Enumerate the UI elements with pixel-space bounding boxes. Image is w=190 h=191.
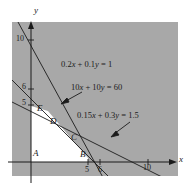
vertex-label-d: D bbox=[50, 117, 57, 126]
x-tick-label-10: 10 bbox=[143, 164, 151, 172]
eq1-pre: 0.2 bbox=[61, 59, 72, 69]
eq3-pre: 0.15 bbox=[77, 110, 92, 120]
y-tick-label-6: 6 bbox=[22, 83, 26, 91]
y-tick-label-5: 5 bbox=[22, 99, 26, 107]
vertex-label-b: B bbox=[80, 150, 86, 159]
vertex-label-c: C bbox=[71, 133, 77, 142]
eq1-post: = 1 bbox=[99, 59, 112, 69]
equation-label-02x-01y: 0.2x + 0.1y = 1 bbox=[61, 60, 112, 69]
equation-label-015x-03y: 0.15x + 0.3y = 1.5 bbox=[77, 111, 139, 120]
feasible-region-figure: y x 10 6 5 5 6 10 A B C D E 0.2x + 0.1y … bbox=[0, 0, 190, 191]
x-tick-label-5: 5 bbox=[85, 166, 89, 174]
eq3-post: = 1.5 bbox=[119, 110, 139, 120]
x-tick-label-6: 6 bbox=[98, 166, 102, 174]
vertex-label-a: A bbox=[33, 149, 39, 158]
figure-canvas bbox=[0, 0, 190, 191]
eq2-pre: 10 bbox=[71, 82, 80, 92]
eq2-post: = 60 bbox=[105, 82, 123, 92]
y-tick-label-10: 10 bbox=[16, 35, 24, 43]
y-axis-label: y bbox=[34, 6, 38, 15]
vertex-label-e: E bbox=[37, 104, 43, 113]
eq1-mid: + 0.1 bbox=[75, 59, 95, 69]
equation-label-10x-10y: 10x + 10y = 60 bbox=[71, 83, 122, 92]
eq2-mid: + 10 bbox=[83, 82, 101, 92]
x-axis-label: x bbox=[179, 155, 183, 164]
eq3-mid: + 0.3 bbox=[96, 110, 116, 120]
